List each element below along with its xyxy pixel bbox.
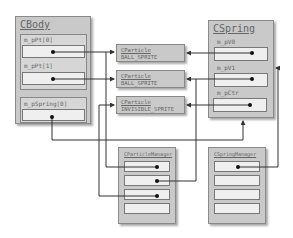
pointer-connectors [0,0,293,238]
